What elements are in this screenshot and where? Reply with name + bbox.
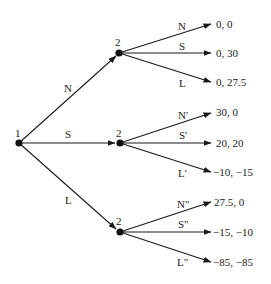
edge-bot-l — [120, 232, 211, 262]
payoff-bot-s: −15, −10 — [213, 226, 253, 238]
branch-label-mid-l: L' — [178, 167, 187, 179]
root-node — [15, 139, 22, 146]
move-label-l: L — [65, 194, 72, 206]
subgame-middle: 2 N' S' L' 30, 0 20, 20 −10, −15 — [116, 106, 253, 179]
edge-top-l — [119, 53, 211, 82]
node-middle — [116, 139, 123, 146]
branch-label-bot-n: N" — [177, 198, 189, 210]
branch-label-mid-n: N' — [178, 109, 188, 121]
move-label-s: S — [65, 128, 71, 140]
branch-label-top-s: S — [179, 40, 185, 52]
branch-label-mid-s: S' — [179, 129, 187, 141]
payoff-mid-n: 30, 0 — [216, 106, 239, 118]
payoff-top-s: 0, 30 — [216, 47, 239, 59]
root-player-label: 1 — [15, 127, 21, 139]
branch-label-top-l: L — [179, 77, 186, 89]
payoff-bot-n: 27.5, 0 — [214, 196, 245, 208]
player-label-top: 2 — [115, 36, 121, 48]
branch-label-top-n: N — [178, 20, 186, 32]
edge-mid-l — [120, 143, 211, 172]
branch-label-bot-s: S" — [178, 218, 189, 230]
payoff-top-l: 0, 27.5 — [216, 76, 247, 88]
edge-top-n — [119, 24, 211, 53]
payoff-top-n: 0, 0 — [216, 18, 233, 30]
game-tree: 1 N S L 2 N S L 0, 0 0, 30 0, 27.5 2 N' … — [0, 0, 271, 284]
edge-mid-n — [120, 113, 211, 143]
payoff-mid-s: 20, 20 — [216, 137, 244, 149]
subgame-bottom: 2 N" S" L" 27.5, 0 −15, −10 −85, −85 — [116, 196, 253, 268]
node-top — [115, 49, 122, 56]
player-label-bottom: 2 — [116, 215, 122, 227]
payoff-mid-l: −10, −15 — [213, 166, 253, 178]
subgame-top: 2 N S L 0, 0 0, 30 0, 27.5 — [115, 18, 247, 89]
payoff-bot-l: −85, −85 — [213, 256, 253, 268]
branch-label-bot-l: L" — [177, 256, 188, 268]
edge-bot-n — [120, 202, 211, 232]
edge-root-l — [19, 143, 116, 229]
player-label-middle: 2 — [116, 127, 122, 139]
move-label-n: N — [64, 82, 72, 94]
node-bottom — [116, 228, 123, 235]
